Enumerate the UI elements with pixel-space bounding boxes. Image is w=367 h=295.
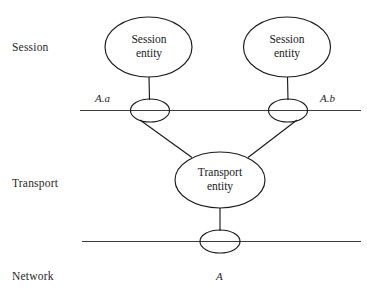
transport-entity-line1: Transport [178, 166, 262, 180]
session-entity-right-label: Session entity [246, 33, 328, 60]
session-entity-right-line2: entity [246, 47, 328, 61]
connector-sap-left-to-transport [140, 120, 192, 158]
connector-session-right-to-sap [288, 77, 289, 100]
connector-sap-right-to-transport [248, 120, 297, 158]
diagram-canvas: Session Transport Network Session entity… [0, 0, 367, 295]
sap-right-label: A.b [320, 92, 335, 104]
session-entity-left-label: Session entity [108, 33, 190, 60]
connector-session-left-to-sap [149, 77, 150, 100]
layer-label-transport: Transport [12, 177, 58, 189]
session-entity-right-line1: Session [246, 33, 328, 47]
session-entity-left-line2: entity [108, 47, 190, 61]
sap-left-label: A.a [95, 92, 110, 104]
network-sap-label: A [216, 270, 223, 282]
session-entity-left-line1: Session [108, 33, 190, 47]
layer-label-session: Session [12, 41, 49, 53]
layer-label-network: Network [12, 270, 54, 282]
transport-entity-label: Transport entity [178, 166, 262, 193]
transport-entity-line2: entity [178, 180, 262, 194]
